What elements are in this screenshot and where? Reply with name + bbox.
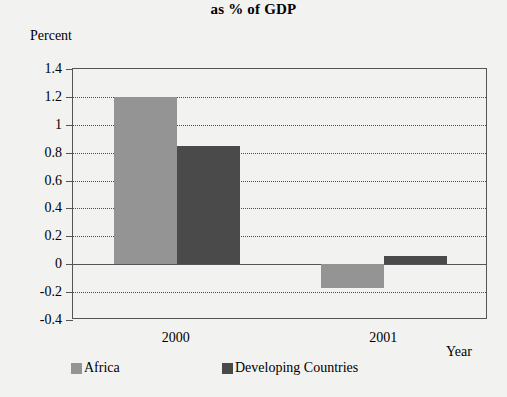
y-axis-tick-label: 0.4 <box>45 200 63 216</box>
legend-label: Developing Countries <box>235 360 358 376</box>
x-axis-label: Year <box>446 344 472 360</box>
chart-legend: AfricaDeveloping Countries <box>0 360 507 384</box>
y-axis-tick-label: -0.2 <box>40 284 62 300</box>
legend-item: Developing Countries <box>222 360 358 376</box>
legend-item: Africa <box>71 360 120 376</box>
y-axis-tick-mark <box>66 69 73 70</box>
chart-title: as % of GDP <box>0 1 507 18</box>
bar <box>177 146 240 265</box>
x-axis-tick-label: 2001 <box>369 330 397 346</box>
y-axis-tick-mark <box>66 236 73 237</box>
y-axis-tick-label: 0.2 <box>45 228 63 244</box>
y-axis-tick-mark <box>66 292 73 293</box>
legend-swatch-icon <box>222 363 233 374</box>
y-axis-tick-label: 1.2 <box>45 89 63 105</box>
y-axis-label: Percent <box>30 28 72 44</box>
bar <box>114 97 177 264</box>
plot-area: 1.41.210.80.60.40.20-0.2-0.4 <box>72 68 487 319</box>
y-axis-tick-label: -0.4 <box>40 312 62 328</box>
y-axis-tick-label: 1 <box>55 117 62 133</box>
y-axis-tick-mark <box>66 125 73 126</box>
y-axis-tick-mark <box>66 264 73 265</box>
y-axis-tick-label: 0.8 <box>45 145 63 161</box>
chart-container: as % of GDP Percent Year 1.41.210.80.60.… <box>0 0 507 397</box>
y-axis-tick-mark <box>66 181 73 182</box>
legend-label: Africa <box>84 360 120 376</box>
y-axis-tick-label: 0 <box>55 256 62 272</box>
legend-swatch-icon <box>71 363 82 374</box>
y-axis-tick-label: 0.6 <box>45 173 63 189</box>
bar <box>321 264 384 288</box>
y-axis-tick-mark <box>66 320 73 321</box>
y-axis-tick-mark <box>66 97 73 98</box>
y-axis-tick-label: 1.4 <box>45 61 63 77</box>
bar <box>384 256 447 264</box>
bars-layer <box>73 69 486 318</box>
y-axis-tick-mark <box>66 153 73 154</box>
x-axis-tick-label: 2000 <box>162 330 190 346</box>
y-axis-tick-mark <box>66 208 73 209</box>
